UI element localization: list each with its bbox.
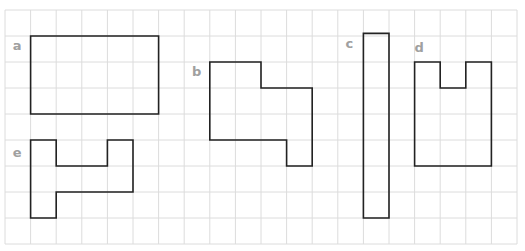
figure-label: c [345, 36, 353, 51]
grid-lines [5, 10, 517, 244]
figure-outline [363, 33, 389, 218]
figures-layer: abcde [13, 33, 492, 218]
shape-grid-diagram: abcde [0, 0, 525, 251]
figure-label: e [13, 145, 22, 160]
figure-outline [31, 36, 159, 114]
figure-a: a [13, 36, 159, 114]
figure-label: b [192, 64, 201, 79]
figure-e: e [13, 140, 133, 218]
figure-label: a [13, 38, 22, 53]
figure-d: d [415, 40, 492, 166]
figure-label: d [415, 40, 424, 55]
figure-c: c [345, 33, 389, 218]
